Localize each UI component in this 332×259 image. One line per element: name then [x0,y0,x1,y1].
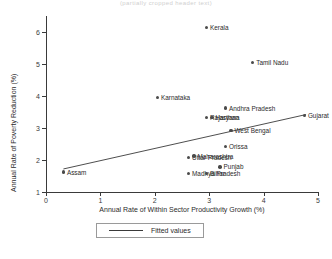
data-point-label: Maharashtra [197,153,233,160]
data-point-label: Haryana [215,114,239,121]
plot-area: 123456 012345 KeralaTamil NaduKarnatakaA… [46,16,318,192]
data-point-label: Karnataka [161,94,190,101]
y-tick-label: 3 [26,125,40,132]
x-tick-label: 5 [308,197,328,204]
x-axis-line [46,192,318,193]
x-tick [264,192,265,196]
x-tick [318,192,319,196]
legend: Fitted values [96,223,204,238]
x-tick-label: 1 [90,197,110,204]
x-tick-label: 2 [145,197,165,204]
scatter-plot-figure: (partially cropped header text) 123456 0… [0,0,332,259]
x-tick-label: 0 [36,197,56,204]
data-point [218,165,221,168]
y-axis-title: Annual Rate of Poverty Reduction (%) [10,74,17,192]
data-point [229,129,232,132]
figure-top-caption: (partially cropped header text) [0,0,332,6]
data-point-label: Bihar [210,170,225,177]
fitted-values-line [46,16,318,192]
data-point [192,154,195,157]
x-tick [155,192,156,196]
y-tick-label: 4 [26,93,40,100]
data-point-label: Gujarat [308,112,329,119]
data-point [224,106,227,109]
data-point [303,114,306,117]
x-tick [209,192,210,196]
data-point-label: Andhra Pradesh [229,105,275,112]
y-tick-label: 1 [26,189,40,196]
y-tick-label: 5 [26,61,40,68]
legend-line-swatch [109,230,143,231]
data-point-label: Assam [67,169,87,176]
data-point [205,26,208,29]
data-point-label: West Bengal [234,127,270,134]
x-axis-title: Annual Rate of Within Sector Productivit… [46,206,318,213]
x-tick-label: 4 [254,197,274,204]
x-tick [100,192,101,196]
data-point-label: Orissa [229,143,247,150]
x-tick-label: 3 [199,197,219,204]
y-tick-label: 2 [26,157,40,164]
y-tick-label: 6 [26,29,40,36]
data-point-label: Tamil Nadu [256,59,288,66]
legend-label: Fitted values [151,227,191,234]
data-point-label: Kerala [210,24,228,31]
data-point [62,170,65,173]
x-tick [46,192,47,196]
